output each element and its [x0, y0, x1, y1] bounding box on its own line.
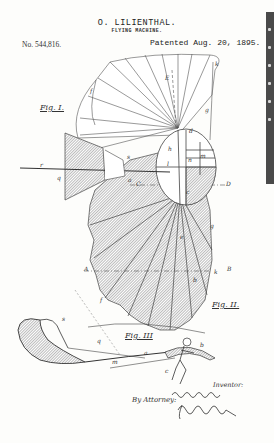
fig2-label: Fig. II. — [212, 300, 239, 309]
ref-letter: B — [227, 265, 231, 272]
ref-letter: a — [128, 176, 132, 183]
inventor-caption: Inventor: — [213, 381, 243, 389]
patent-sheet: O. LILIENTHAL. FLYING MACHINE. No. 544,8… — [0, 0, 274, 443]
ref-letter: e — [180, 233, 184, 240]
ref-letter: m — [200, 152, 206, 159]
ref-letter: b — [200, 341, 204, 348]
attorney-caption: By Attorney: — [132, 396, 176, 404]
ref-letter: k — [214, 268, 218, 275]
ref-letter: s — [62, 315, 65, 322]
ref-letter: n — [188, 156, 192, 163]
ref-letter: C — [136, 180, 141, 187]
fig3-label: Fig. III — [125, 331, 153, 340]
ref-letter: a — [144, 349, 148, 356]
ref-letter: q — [57, 174, 61, 181]
patent-drawing — [0, 0, 274, 443]
ref-letter: c — [165, 367, 168, 374]
ref-letter: d — [189, 127, 193, 134]
ref-letter: l — [167, 160, 169, 167]
ref-letter: g — [210, 222, 214, 229]
ref-letter: m — [112, 358, 118, 365]
ref-letter: h — [168, 145, 172, 152]
ref-letter: q — [97, 337, 101, 344]
ref-letter: s — [127, 153, 130, 160]
ref-letter: f — [90, 87, 92, 94]
fig1-label: Fig. I. — [40, 103, 64, 112]
ref-letter: r — [40, 161, 43, 168]
ref-letter: g — [205, 106, 209, 113]
ref-letter: c — [186, 188, 189, 195]
ref-letter: f — [100, 296, 102, 303]
ref-letter: k — [215, 60, 219, 67]
ref-letter: E — [165, 74, 169, 81]
ref-letter: D — [226, 180, 231, 187]
ref-letter: A — [84, 265, 88, 272]
ref-letter: b — [193, 276, 197, 283]
